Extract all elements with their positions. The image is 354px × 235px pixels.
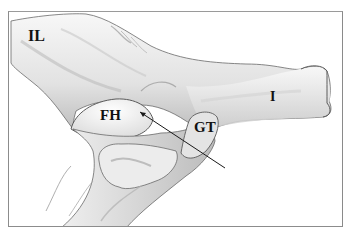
pelvis-bone <box>11 14 331 131</box>
label-ischium: I <box>270 90 275 104</box>
hip-joint-illustration <box>8 11 343 227</box>
anatomy-figure: IL I FH GT <box>8 11 343 227</box>
label-ilium: IL <box>28 28 45 44</box>
label-greater-trochanter: GT <box>194 120 216 135</box>
label-femoral-head: FH <box>100 108 121 123</box>
